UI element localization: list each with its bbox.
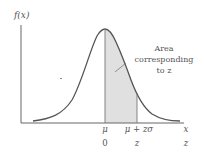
annotation-line1: Area: [153, 44, 173, 53]
annotation-line2: corresponding: [135, 55, 194, 64]
z-axis-label: z: [183, 138, 189, 148]
tick-mu-plus-z-sigma: μ + zσ: [125, 124, 154, 134]
shaded-area: [105, 29, 137, 123]
tick-zero: 0: [102, 138, 107, 148]
normal-distribution-figure: f(x) Area corresponding to z μ μ + zσ x …: [0, 0, 204, 160]
tick-mu: μ: [102, 124, 108, 134]
annotation-line3: to z: [157, 66, 172, 75]
stray-mark: [60, 78, 62, 79]
y-axis-label: f(x): [13, 10, 30, 20]
tick-z: z: [134, 138, 140, 148]
x-axis-label: x: [184, 124, 189, 134]
